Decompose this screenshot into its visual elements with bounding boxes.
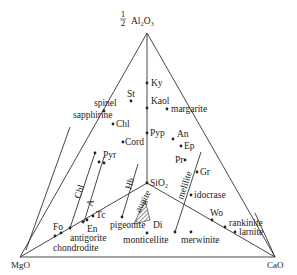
vertex-cao: CaO xyxy=(267,260,284,270)
label-spinel: spinel xyxy=(94,98,117,108)
label-pr: Pr xyxy=(175,155,184,165)
label-st: St xyxy=(127,89,135,99)
half-denominator: 2 xyxy=(121,18,126,28)
label-sio2: SiO₂ xyxy=(150,178,168,188)
label-ky: Ky xyxy=(151,78,163,88)
label-merwinite: merwinite xyxy=(181,235,220,245)
label-tc: Tc xyxy=(96,210,105,220)
label-fo: Fo xyxy=(53,222,63,232)
label-wo: Wo xyxy=(210,208,223,218)
label-pigeonite: pigeonite xyxy=(110,220,145,230)
ternary-diagram: 1 2 Al₂O₃ MgO CaO Ky Kaol margarite St s… xyxy=(0,0,297,275)
label-di: Di xyxy=(153,220,163,230)
label-antigorite: antigorite xyxy=(70,233,106,243)
label-augite: augite xyxy=(133,189,153,214)
label-pyp: Pyp xyxy=(150,128,165,138)
label-margarite: margarite xyxy=(171,104,207,114)
label-a-line: A xyxy=(84,198,96,208)
label-pyr: Pyr xyxy=(103,150,117,160)
vertex-mgo: MgO xyxy=(11,260,31,270)
label-idocrase: idocrase xyxy=(194,190,226,200)
label-an: An xyxy=(177,129,189,139)
label-chondrodite: chondrodite xyxy=(53,243,98,253)
label-kaol: Kaol xyxy=(151,96,170,106)
vertex-al2o3: Al₂O₃ xyxy=(131,16,154,26)
label-hb-line: Hb xyxy=(123,176,136,190)
label-larnite: larnite xyxy=(239,227,263,237)
label-cord: Cord xyxy=(125,137,144,147)
label-sapphirine: sapphirine xyxy=(73,110,113,120)
label-chl: Chl xyxy=(116,119,130,129)
label-monticellite: monticellite xyxy=(123,235,168,245)
label-gr: Gr xyxy=(200,167,211,177)
label-ep: Ep xyxy=(184,141,195,151)
